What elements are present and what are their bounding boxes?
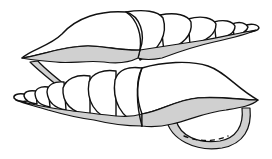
seashells-illustration [0,0,272,159]
illustration-canvas [0,0,272,159]
